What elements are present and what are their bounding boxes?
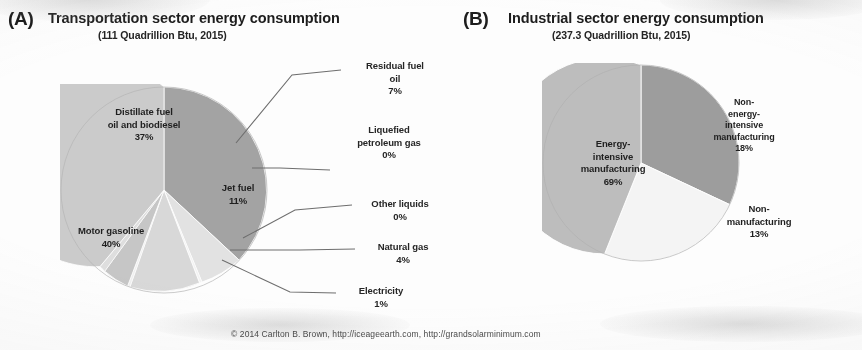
panel-b-subtitle: (237.3 Quadrillion Btu, 2015) — [552, 29, 690, 41]
callout-lpg-line2: petroleum gas — [333, 137, 445, 150]
callout-natgas-line1: Natural gas — [360, 241, 446, 254]
label-energy-line3: manufacturing — [548, 163, 678, 176]
label-jet-fuel: Jet fuel 11% — [208, 182, 268, 207]
callout-other-pct: 0% — [355, 211, 445, 224]
callout-electricity: Electricity 1% — [340, 285, 422, 310]
panel-a-title: Transportation sector energy consumption — [48, 10, 340, 26]
callout-natural-gas: Natural gas 4% — [360, 241, 446, 266]
label-nonenergy-pct: 18% — [692, 143, 796, 155]
panel-a-letter: (A) — [8, 8, 33, 30]
label-energy-line1: Energy- — [548, 138, 678, 151]
label-energy-pct: 69% — [548, 176, 678, 189]
callout-lpg-pct: 0% — [333, 149, 445, 162]
callout-electricity-line1: Electricity — [340, 285, 422, 298]
panel-b-title: Industrial sector energy consumption — [508, 10, 764, 26]
callout-other-line1: Other liquids — [355, 198, 445, 211]
label-distillate-pct: 37% — [84, 131, 204, 144]
callout-residual-pct: 7% — [345, 85, 445, 98]
label-distillate-line2: oil and biodiesel — [84, 119, 204, 132]
label-nonenergy-line2: energy- — [692, 109, 796, 121]
callout-natgas-pct: 4% — [360, 254, 446, 267]
callout-residual-fuel-oil: Residual fuel oil 7% — [345, 60, 445, 98]
label-nonenergy-line1: Non- — [692, 97, 796, 109]
callout-liquefied-petroleum-gas: Liquefied petroleum gas 0% — [333, 124, 445, 162]
label-nonmfg-line2: manufacturing — [704, 216, 814, 229]
callout-other-liquids: Other liquids 0% — [355, 198, 445, 223]
callout-residual-line2: oil — [345, 73, 445, 86]
label-nonmfg-line1: Non- — [704, 203, 814, 216]
label-energy-intensive: Energy- intensive manufacturing 69% — [548, 138, 678, 188]
callout-lpg-line1: Liquefied — [333, 124, 445, 137]
panel-b-letter: (B) — [463, 8, 488, 30]
panel-a-subtitle: (111 Quadrillion Btu, 2015) — [98, 29, 227, 41]
label-motor-pct: 40% — [51, 238, 171, 251]
callout-residual-line1: Residual fuel — [345, 60, 445, 73]
label-nonenergy-line3: intensive — [692, 120, 796, 132]
label-nonenergy-line4: manufacturing — [692, 132, 796, 144]
label-motor-line1: Motor gasoline — [51, 225, 171, 238]
label-nonmfg-pct: 13% — [704, 228, 814, 241]
figure-canvas: (A) Transportation sector energy consump… — [0, 0, 862, 350]
label-motor-gasoline: Motor gasoline 40% — [51, 225, 171, 250]
label-non-energy-intensive: Non- energy- intensive manufacturing 18% — [692, 97, 796, 155]
scan-smudge-bottom-right — [600, 306, 862, 342]
label-jet-pct: 11% — [208, 195, 268, 208]
label-non-manufacturing: Non- manufacturing 13% — [704, 203, 814, 241]
label-jet-line1: Jet fuel — [208, 182, 268, 195]
label-energy-line2: intensive — [548, 151, 678, 164]
copyright-credit: © 2014 Carlton B. Brown, http://iceageea… — [231, 329, 541, 339]
callout-electricity-pct: 1% — [340, 298, 422, 311]
label-distillate-fuel: Distillate fuel oil and biodiesel 37% — [84, 106, 204, 144]
label-distillate-line1: Distillate fuel — [84, 106, 204, 119]
